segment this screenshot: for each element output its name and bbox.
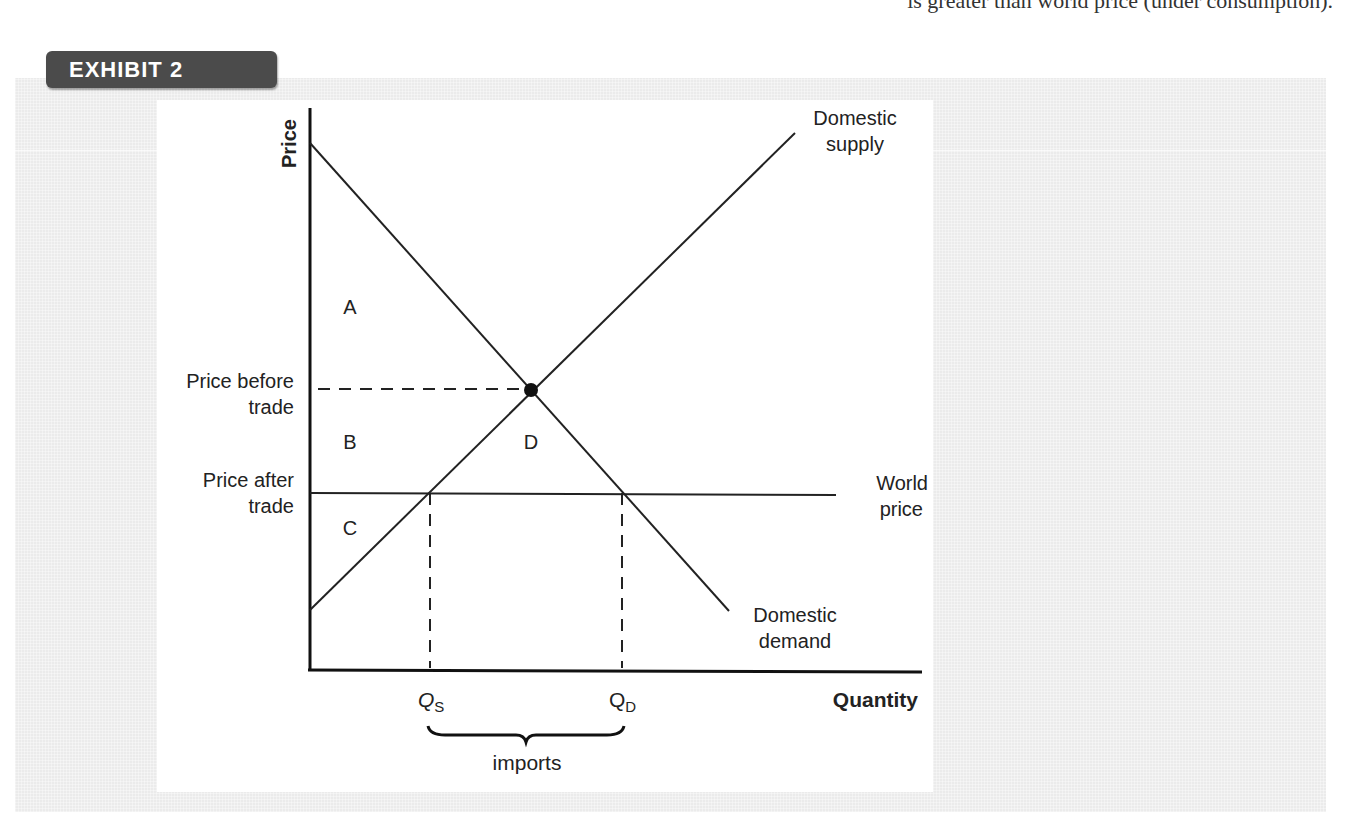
area-d-label: D [524,431,538,453]
price-before-trade-label-line1: Price before [186,370,294,392]
x-axis-label: Quantity [833,688,918,711]
qs-label: QS [418,688,444,715]
world-price-label-line2: price [880,498,923,520]
supply-label-line2: supply [826,133,884,155]
equilibrium-point [524,383,538,397]
domestic-demand-curve [310,143,729,611]
area-b-label: B [343,431,356,453]
imports-brace [428,726,624,742]
world-price-label-line1: World [876,472,928,494]
demand-label-line1: Domestic [753,604,836,626]
supply-label-line1: Domestic [813,107,896,129]
domestic-supply-curve [310,133,795,610]
price-after-trade-label-line2: trade [248,495,294,517]
y-axis-label: Price [278,119,300,168]
price-after-trade-label-line1: Price after [203,469,294,491]
area-a-label: A [343,296,357,318]
qd-label: QD [609,688,636,715]
demand-label-line2: demand [759,630,831,652]
world-price-line [310,493,836,495]
price-before-trade-label-line2: trade [248,396,294,418]
area-c-label: C [343,517,357,539]
imports-label: imports [493,751,562,774]
x-axis [308,670,922,672]
supply-demand-chart: Price Quantity Domestic supply Domestic … [0,0,1345,838]
